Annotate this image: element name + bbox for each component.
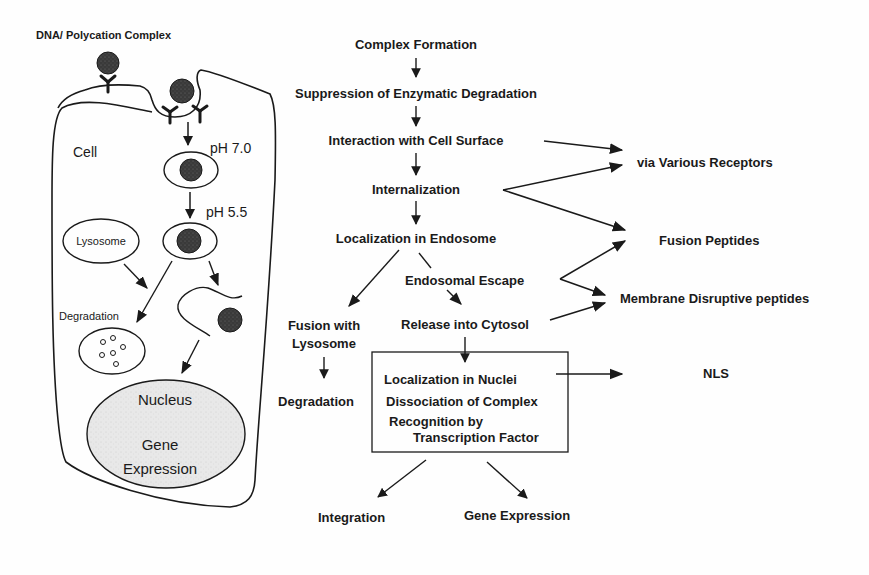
cell-label: Cell <box>73 144 97 160</box>
fusion-degradation-label: Degradation <box>278 394 354 409</box>
complex-label: DNA/ Polycation Complex <box>36 29 172 41</box>
box-dissociation: Dissociation of Complex <box>386 394 538 409</box>
strategy-panel: via Various Receptors Fusion Peptides Me… <box>503 141 809 381</box>
integration-label: Integration <box>318 510 385 525</box>
step-endosome-localization: Localization in Endosome <box>336 231 496 246</box>
complex-surface-icon <box>97 52 119 74</box>
complex-pit-icon <box>170 79 194 103</box>
degradation-label: Degradation <box>59 310 119 322</box>
complex-early-endosome-icon <box>180 159 202 181</box>
complex-late-endosome-icon <box>177 229 201 253</box>
step-complex-formation: Complex Formation <box>355 37 477 52</box>
box-localization-nuclei: Localization in Nuclei <box>384 372 517 387</box>
nucleus-label: Nucleus <box>138 391 192 408</box>
diagram-canvas: DNA/ Polycation Complex Cell pH 7.0 pH 5… <box>0 0 869 575</box>
ph-late-label: pH 5.5 <box>206 204 247 220</box>
fusion-with-label: Fusion with <box>288 318 360 333</box>
box-transcription-factor: Transcription Factor <box>413 430 539 445</box>
released-complex-icon <box>218 308 242 332</box>
step-suppression: Suppression of Enzymatic Degradation <box>295 86 537 101</box>
fusion-lysosome-label: Lysosome <box>292 336 356 351</box>
gene-expression-label: Gene Expression <box>464 508 570 523</box>
expression-label: Expression <box>123 460 197 477</box>
cell-panel: DNA/ Polycation Complex Cell pH 7.0 pH 5… <box>36 29 275 507</box>
ph-early-label: pH 7.0 <box>210 140 251 156</box>
step-internalization: Internalization <box>372 182 460 197</box>
receptor-pit-right-icon <box>193 106 207 122</box>
flow-panel: Complex Formation Suppression of Enzymat… <box>278 37 570 525</box>
nls-label: NLS <box>703 366 729 381</box>
gene-label: Gene <box>142 436 179 453</box>
degraded-fragments-icon <box>100 336 126 367</box>
pathway-diagram: DNA/ Polycation Complex Cell pH 7.0 pH 5… <box>0 0 869 575</box>
receptor-surface-icon <box>101 76 115 92</box>
membrane-peptides-label: Membrane Disruptive peptides <box>620 291 809 306</box>
step-interaction: Interaction with Cell Surface <box>329 133 504 148</box>
fusion-peptides-label: Fusion Peptides <box>659 233 759 248</box>
lysosome-label: Lysosome <box>76 235 126 247</box>
endosomal-escape-label: Endosomal Escape <box>405 273 524 288</box>
box-recognition: Recognition by <box>389 414 484 429</box>
release-cytosol-label: Release into Cytosol <box>401 317 529 332</box>
via-receptors-label: via Various Receptors <box>637 155 773 170</box>
